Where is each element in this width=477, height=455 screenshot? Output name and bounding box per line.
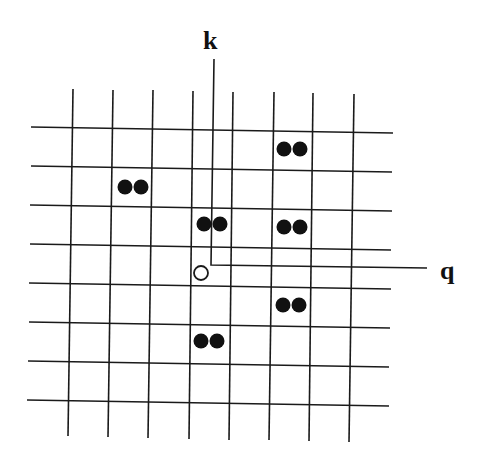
filled-dot <box>277 142 292 157</box>
horizontal-grid-line <box>29 322 390 328</box>
vertical-grid-line <box>349 94 354 442</box>
filled-dot <box>293 220 308 235</box>
filled-dot <box>277 220 292 235</box>
filled-dot-pair <box>194 334 225 349</box>
lattice-diagram <box>0 0 477 455</box>
filled-dot <box>194 334 209 349</box>
filled-dot <box>293 142 308 157</box>
open-circle-marker <box>194 266 208 280</box>
k-label: k <box>203 28 217 54</box>
vertical-grid-line <box>148 90 153 438</box>
filled-dot-pair <box>277 142 308 157</box>
filled-dot <box>118 180 133 195</box>
filled-dot <box>210 334 225 349</box>
filled-dot <box>276 298 291 313</box>
filled-dot <box>213 217 228 232</box>
filled-dot <box>134 180 149 195</box>
horizontal-grid-line <box>29 283 391 289</box>
vertical-grid-line <box>68 89 73 436</box>
horizontal-grid-line <box>31 127 393 133</box>
filled-dot-pair <box>277 220 308 235</box>
filled-dot-pair <box>118 180 149 195</box>
q-label: q <box>440 258 454 284</box>
vertical-grid-line <box>108 90 113 437</box>
vertical-grid-line <box>189 91 193 439</box>
k-q-pointer-line <box>211 59 427 268</box>
filled-dot <box>197 217 212 232</box>
filled-dot <box>292 298 307 313</box>
horizontal-grid-line <box>27 400 389 406</box>
horizontal-grid-line <box>31 166 392 172</box>
filled-dot-pair <box>276 298 307 313</box>
horizontal-grid-line <box>28 361 389 367</box>
